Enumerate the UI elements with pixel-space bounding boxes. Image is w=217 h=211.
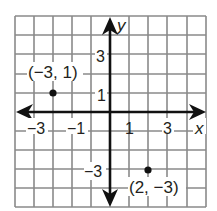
point-label: (−3, 1) (28, 63, 78, 82)
y-tick-label: −3 (84, 163, 102, 180)
coordinate-grid: −3 −1 1 3 3 1 −3 y x (−3, 1) (2, −3) (0, 0, 217, 211)
y-tick-label: 3 (96, 48, 105, 65)
point-2-neg3 (144, 166, 151, 173)
x-tick-label: −1 (67, 120, 85, 137)
x-tick-label: −3 (27, 120, 45, 137)
x-axis-label: x (194, 119, 204, 138)
y-tick-label: 1 (97, 87, 106, 104)
x-tick-label: 3 (163, 120, 172, 137)
y-axis-label: y (116, 16, 127, 35)
point-neg3-1 (49, 89, 56, 96)
x-tick-label: 1 (125, 120, 134, 137)
point-label: (2, −3) (129, 178, 179, 197)
